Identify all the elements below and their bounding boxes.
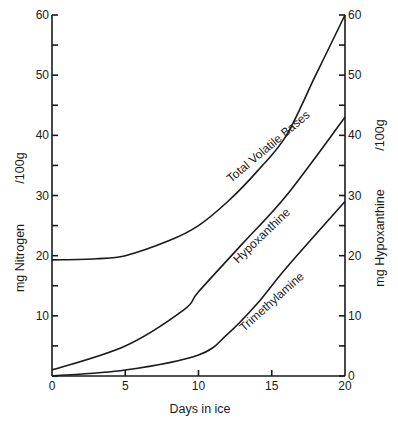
curve-hypoxanthine <box>52 117 345 370</box>
x-tick-label: 0 <box>49 379 56 393</box>
y-tick-label-right: 60 <box>348 8 362 22</box>
chart: 102030405060010203040506005101520 Total … <box>0 0 398 424</box>
tick-labels: 102030405060010203040506005101520 <box>36 8 362 393</box>
curve-trimethylamine <box>52 202 345 377</box>
y-tick-label-right: 20 <box>348 249 362 263</box>
y-tick-label-left: 40 <box>36 128 50 142</box>
y-tick-label-right: 30 <box>348 189 362 203</box>
y-tick-label-left: 20 <box>36 249 50 263</box>
x-tick-label: 10 <box>192 379 206 393</box>
axes <box>52 15 345 376</box>
y-tick-label-left: 30 <box>36 189 50 203</box>
x-tick-label: 15 <box>265 379 279 393</box>
y-tick-label-right: 10 <box>348 309 362 323</box>
curve-label-hypoxanthine: Hypoxanthine <box>230 205 293 266</box>
curve-label-trimethylamine: Trimethylamine <box>237 269 307 334</box>
x-tick-label: 5 <box>122 379 129 393</box>
y-axis-title-left: mg Nitrogen /100g <box>13 152 27 292</box>
y-axis-title-left-main: mg Nitrogen <box>13 224 27 292</box>
y-tick-label-left: 50 <box>36 68 50 82</box>
y-axis-title-right: mg Hypoxanthine /100g <box>373 119 387 286</box>
y-tick-label-right: 50 <box>348 68 362 82</box>
x-tick-label: 20 <box>338 379 352 393</box>
x-axis-title: Days in ice <box>169 402 230 416</box>
y-axis-title-right-main: mg Hypoxanthine <box>373 189 387 286</box>
y-tick-label-left: 60 <box>36 8 50 22</box>
y-tick-label-right: 40 <box>348 128 362 142</box>
curves <box>52 15 345 376</box>
y-axis-title-left-unit: /100g <box>13 152 27 183</box>
y-tick-label-left: 10 <box>36 309 50 323</box>
curve-label-total-volatile-bases: Total Volatile Bases <box>224 108 313 186</box>
curve-total-volatile-bases <box>52 15 345 260</box>
y-axis-title-right-unit: /100g <box>373 119 387 150</box>
